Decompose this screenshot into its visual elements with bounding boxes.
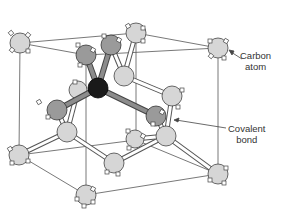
- carbon-atom-label-line1: Carbon: [240, 50, 271, 61]
- dark-atoms: [47, 35, 166, 126]
- covalent-bond-label: Covalent bond: [228, 123, 266, 145]
- central-carbon-atom: [88, 78, 108, 98]
- carbon-atom-label: Carbon atom: [240, 50, 271, 72]
- carbon-atom: [146, 106, 166, 126]
- covalent-bond-label-line1: Covalent: [228, 123, 266, 134]
- covalent-bond-leader: [176, 120, 226, 128]
- diamond-lattice-diagram: [0, 0, 287, 214]
- covalent-bonds: [19, 33, 218, 174]
- carbon-atom-label-line2: atom: [240, 61, 271, 72]
- arrow-head-icon: [229, 50, 234, 55]
- carbon-atom: [162, 86, 182, 106]
- carbon-atom: [57, 122, 77, 142]
- arrow-head-icon: [174, 118, 179, 122]
- carbon-atom: [156, 126, 176, 146]
- covalent-bond-label-line2: bond: [228, 134, 266, 145]
- carbon-atom: [114, 66, 134, 86]
